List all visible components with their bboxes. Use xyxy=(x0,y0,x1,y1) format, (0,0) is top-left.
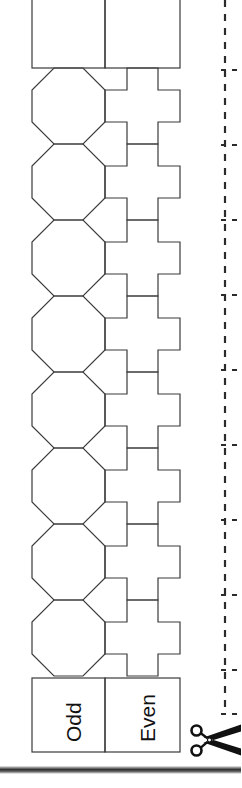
octagon-column xyxy=(32,68,105,676)
label-odd: Odd xyxy=(62,702,86,742)
top-band xyxy=(32,0,180,68)
scissors-handles-icon xyxy=(192,726,208,756)
page-edge-shadow xyxy=(0,766,241,774)
worksheet-page: Odd Even xyxy=(0,0,241,788)
scissors-icon xyxy=(204,725,242,756)
label-even: Even xyxy=(136,694,160,742)
page-below-edge xyxy=(0,774,241,788)
cross-column xyxy=(105,68,180,676)
tessellation-diagram xyxy=(0,0,241,788)
